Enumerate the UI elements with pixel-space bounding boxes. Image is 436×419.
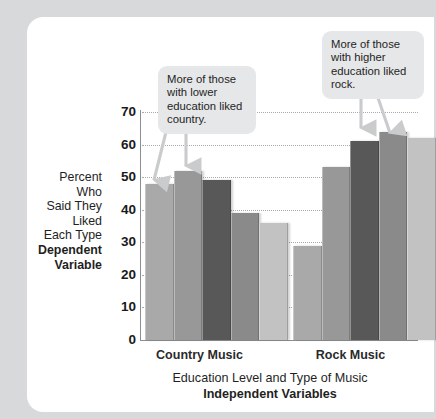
y-axis-tick-labels: 010203040506070 [100,0,136,419]
bar [293,246,322,340]
y-axis-tick-label: 0 [104,333,136,347]
y-axis-label-line-5: Each Type [10,228,102,243]
callout-left-line-1: More of those [167,73,247,86]
x-axis-label: Education Level and Type of Music Indepe… [120,370,420,402]
y-axis-tick-label: 50 [104,170,136,184]
callout-right-line-4: rock. [331,78,415,91]
x-axis-line [140,340,418,341]
callout-right-line-3: education liked [331,65,415,78]
y-axis-label-bold-1: Dependent [10,243,102,258]
y-axis-tick-label: 70 [104,105,136,119]
bar [322,167,351,340]
bar [407,138,436,340]
bar [259,223,288,340]
x-axis-label-line-1: Education Level and Type of Music [120,370,420,386]
callout-left-line-3: education liked [167,100,247,113]
y-axis-label-line-4: Liked [10,214,102,229]
callout-right-line-2: with higher [331,51,415,64]
bar [145,184,174,340]
y-axis-tick-label: 30 [104,235,136,249]
bars-layer [141,112,418,340]
callout-right-line-1: More of those [331,38,415,51]
bar [379,132,408,340]
category-label-country-music: Country Music [137,348,262,362]
y-axis-label-line-1: Percent [10,170,102,185]
bar [202,180,231,340]
annotation-callout-right: More of those with higher education like… [322,31,424,99]
y-axis-tick-label: 10 [104,300,136,314]
callout-left-line-4: country. [167,113,247,126]
x-axis-label-bold-1: Independent Variables [120,386,420,402]
y-axis-tick-label: 20 [104,268,136,282]
annotation-callout-left: More of those with lower education liked… [158,66,256,134]
y-axis-label-line-2: Who [10,185,102,200]
bar [231,213,260,340]
category-label-rock-music: Rock Music [288,348,413,362]
y-axis-label: Percent Who Said They Liked Each Type De… [10,170,102,272]
y-axis-label-bold-2: Variable [10,258,102,273]
bar [174,171,203,340]
bar [350,141,379,340]
y-axis-tick-label: 60 [104,138,136,152]
y-axis-label-line-3: Said They [10,199,102,214]
callout-left-line-2: with lower [167,86,247,99]
y-axis-tick-label: 40 [104,203,136,217]
